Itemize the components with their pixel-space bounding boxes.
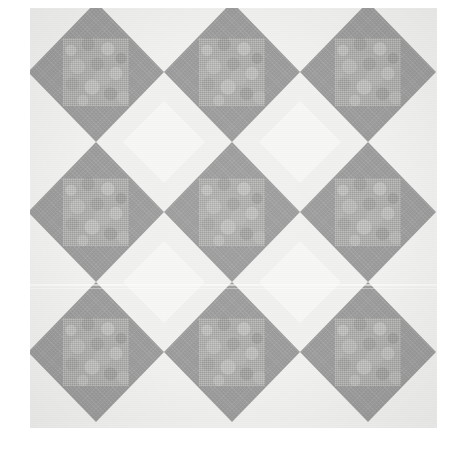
- block-r3c3: [300, 282, 436, 422]
- block-r2c3: [300, 142, 436, 282]
- block-center-square: [199, 178, 266, 247]
- block-center-square: [63, 178, 130, 247]
- block-center-square: [63, 38, 130, 107]
- block-r2c1: [30, 142, 164, 282]
- block-center-square: [335, 178, 402, 247]
- block-center-square: [199, 38, 266, 107]
- block-r3c2: [164, 282, 300, 422]
- block-center-square: [63, 318, 130, 387]
- block-center-square: [335, 38, 402, 107]
- block-center-square: [199, 318, 266, 387]
- quilt-pattern-area: [30, 8, 437, 428]
- block-r3c1: [30, 282, 164, 422]
- image-canvas: [0, 0, 460, 454]
- block-center-square: [335, 318, 402, 387]
- block-r2c2: [164, 142, 300, 282]
